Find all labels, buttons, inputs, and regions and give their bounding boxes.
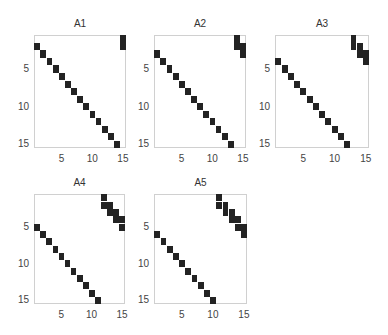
- x-tick-label: 15: [233, 153, 253, 164]
- x-tick-label: 5: [52, 153, 72, 164]
- nonzero-cell: [234, 35, 240, 42]
- nonzero-cell: [198, 282, 204, 289]
- nonzero-cell: [173, 253, 179, 260]
- nonzero-cell: [241, 224, 247, 231]
- panel-a3: A3 5101551015: [275, 35, 369, 148]
- nonzero-cell: [332, 126, 338, 133]
- nonzero-cell: [210, 297, 216, 304]
- y-tick-label: 15: [9, 294, 29, 305]
- panel-a5: A5 5101551015: [154, 194, 247, 304]
- nonzero-cell: [203, 111, 209, 118]
- nonzero-cell: [167, 65, 173, 72]
- panel-a1: A1 5101551015: [34, 35, 126, 148]
- nonzero-cell: [53, 65, 59, 72]
- nonzero-cell: [114, 141, 120, 148]
- panel-title: A4: [34, 177, 125, 188]
- x-tick-label: 5: [293, 153, 313, 164]
- nonzero-cell: [235, 216, 241, 223]
- nonzero-cell: [351, 35, 357, 42]
- y-tick-label: 10: [9, 258, 29, 269]
- nonzero-cell: [161, 238, 167, 245]
- x-tick-label: 15: [113, 153, 133, 164]
- nonzero-cell: [34, 224, 40, 231]
- nonzero-cell: [240, 43, 246, 50]
- nonzero-cell: [357, 50, 363, 57]
- nonzero-cell: [210, 118, 216, 125]
- x-tick-label: 5: [172, 153, 192, 164]
- nonzero-cell: [77, 96, 83, 103]
- nonzero-cell: [234, 43, 240, 50]
- y-tick-label: 15: [129, 138, 149, 149]
- nonzero-cell: [34, 43, 40, 50]
- nonzero-cell: [113, 209, 119, 216]
- nonzero-cell: [216, 194, 222, 201]
- nonzero-cell: [179, 81, 185, 88]
- y-tick-label: 15: [250, 138, 270, 149]
- nonzero-cell: [53, 246, 59, 253]
- nonzero-cell: [294, 81, 300, 88]
- y-tick-label: 10: [129, 101, 149, 112]
- nonzero-cell: [160, 58, 166, 65]
- panel-a4: A4 5101551015: [34, 194, 125, 304]
- nonzero-cell: [40, 231, 46, 238]
- nonzero-cell: [59, 253, 65, 260]
- axes-box: [34, 35, 126, 148]
- y-tick-label: 5: [250, 63, 270, 74]
- nonzero-cell: [223, 209, 229, 216]
- nonzero-cell: [216, 202, 222, 209]
- nonzero-cell: [229, 209, 235, 216]
- nonzero-cell: [65, 81, 71, 88]
- nonzero-cell: [288, 73, 294, 80]
- x-tick-label: 10: [82, 309, 102, 320]
- nonzero-cell: [363, 58, 369, 65]
- nonzero-cell: [40, 50, 46, 57]
- nonzero-cell: [59, 73, 65, 80]
- nonzero-cell: [108, 133, 114, 140]
- nonzero-cell: [275, 58, 281, 65]
- nonzero-cell: [119, 224, 125, 231]
- y-tick-label: 5: [129, 221, 149, 232]
- panel-title: A5: [154, 177, 247, 188]
- nonzero-cell: [223, 202, 229, 209]
- nonzero-cell: [282, 65, 288, 72]
- nonzero-cell: [107, 202, 113, 209]
- nonzero-cell: [191, 96, 197, 103]
- x-tick-label: 15: [234, 309, 254, 320]
- nonzero-cell: [107, 209, 113, 216]
- nonzero-cell: [319, 111, 325, 118]
- nonzero-cell: [96, 118, 102, 125]
- nonzero-cell: [101, 194, 107, 201]
- nonzero-cell: [197, 103, 203, 110]
- y-tick-label: 10: [250, 101, 270, 112]
- nonzero-cell: [344, 141, 350, 148]
- nonzero-cell: [90, 111, 96, 118]
- x-tick-label: 15: [356, 153, 376, 164]
- y-tick-label: 5: [9, 63, 29, 74]
- y-tick-label: 10: [129, 258, 149, 269]
- nonzero-cell: [71, 268, 77, 275]
- nonzero-cell: [313, 103, 319, 110]
- nonzero-cell: [102, 126, 108, 133]
- nonzero-cell: [173, 73, 179, 80]
- nonzero-cell: [119, 216, 125, 223]
- panel-title: A3: [275, 18, 369, 29]
- nonzero-cell: [192, 275, 198, 282]
- nonzero-cell: [216, 126, 222, 133]
- axes-box: [154, 35, 246, 148]
- nonzero-cell: [185, 268, 191, 275]
- nonzero-cell: [120, 35, 126, 42]
- nonzero-cell: [204, 290, 210, 297]
- nonzero-cell: [101, 202, 107, 209]
- nonzero-cell: [357, 43, 363, 50]
- nonzero-cell: [113, 216, 119, 223]
- y-tick-label: 5: [9, 221, 29, 232]
- nonzero-cell: [240, 50, 246, 57]
- nonzero-cell: [77, 275, 83, 282]
- nonzero-cell: [351, 43, 357, 50]
- nonzero-cell: [95, 297, 101, 304]
- nonzero-cell: [185, 88, 191, 95]
- panel-a2: A2 5101551015: [154, 35, 246, 148]
- nonzero-cell: [222, 133, 228, 140]
- y-tick-label: 5: [129, 63, 149, 74]
- nonzero-cell: [228, 141, 234, 148]
